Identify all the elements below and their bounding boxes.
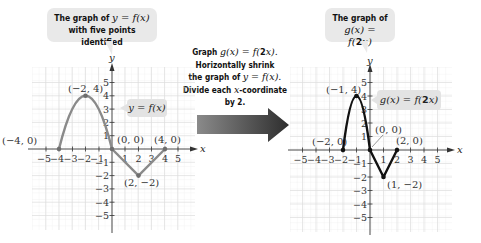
svg-text:(−2, 4): (−2, 4) — [68, 83, 103, 94]
svg-text:−4: −4 — [50, 153, 64, 164]
svg-text:−4: −4 — [95, 197, 109, 208]
svg-text:−2: −2 — [95, 170, 109, 181]
svg-text:−1: −1 — [353, 158, 367, 169]
function-label-text: x) — [429, 94, 439, 105]
left-x-axis-label: x — [200, 143, 206, 154]
svg-text:−4: −4 — [353, 199, 367, 210]
left-y-axis-label: y — [108, 52, 115, 63]
svg-text:−3: −3 — [320, 154, 334, 165]
svg-text:−1: −1 — [95, 157, 109, 168]
svg-text:(0, 0): (0, 0) — [375, 124, 402, 135]
right-y-axis-label: y — [366, 55, 373, 66]
svg-text:−3: −3 — [63, 153, 77, 164]
transformation-diagram: The graph of y = f(x) with five points i… — [0, 0, 481, 243]
svg-text:2: 2 — [135, 153, 141, 164]
svg-text:(2, 0): (2, 0) — [396, 135, 423, 146]
svg-text:−2: −2 — [353, 172, 367, 183]
svg-text:4: 4 — [361, 91, 367, 102]
svg-text:(2, −2): (2, −2) — [124, 177, 159, 188]
svg-text:−5: −5 — [293, 154, 307, 165]
svg-text:5: 5 — [361, 77, 367, 88]
right-function-label: g(x) = f(2x) — [377, 90, 441, 110]
svg-text:(4, 0): (4, 0) — [154, 134, 181, 145]
svg-text:4: 4 — [162, 153, 168, 164]
graphs-svg: x y −5 −4 −3 −2 −1 1 — [0, 0, 481, 243]
svg-text:−5: −5 — [95, 210, 109, 221]
left-graph: x y −5 −4 −3 −2 −1 1 — [2, 52, 206, 233]
function-label-bold: 2 — [422, 94, 429, 105]
svg-text:−5: −5 — [37, 153, 51, 164]
svg-text:−3: −3 — [95, 183, 109, 194]
function-label-text: g(x) = f( — [380, 94, 422, 105]
svg-text:−3: −3 — [353, 185, 367, 196]
svg-text:5: 5 — [103, 77, 109, 88]
function-label-text: y = f(x) — [128, 102, 166, 113]
right-graph: x y −5 −4 −3 −2 −1 1 2 — [288, 55, 463, 235]
svg-text:−2: −2 — [77, 153, 91, 164]
svg-text:−2: −2 — [334, 154, 348, 165]
transform-arrow — [197, 108, 289, 142]
svg-text:(1, −2): (1, −2) — [387, 179, 422, 190]
left-function-label: y = f(x) — [127, 99, 167, 117]
svg-text:−5: −5 — [353, 212, 367, 223]
svg-text:5: 5 — [434, 154, 440, 165]
svg-text:4: 4 — [103, 90, 109, 101]
svg-text:(−2, 0): (−2, 0) — [312, 136, 347, 147]
svg-text:5: 5 — [175, 153, 181, 164]
svg-text:3: 3 — [407, 154, 413, 165]
svg-text:1: 1 — [380, 154, 386, 165]
svg-text:(−1, 4): (−1, 4) — [326, 84, 361, 95]
svg-text:1: 1 — [361, 131, 367, 142]
right-callout-pointer — [360, 41, 368, 53]
svg-text:(0, 0): (0, 0) — [117, 134, 144, 145]
svg-text:4: 4 — [421, 154, 427, 165]
right-x-axis-label: x — [457, 144, 463, 155]
svg-text:−4: −4 — [307, 154, 321, 165]
svg-text:3: 3 — [103, 104, 109, 115]
svg-text:(−4, 0): (−4, 0) — [2, 135, 37, 146]
